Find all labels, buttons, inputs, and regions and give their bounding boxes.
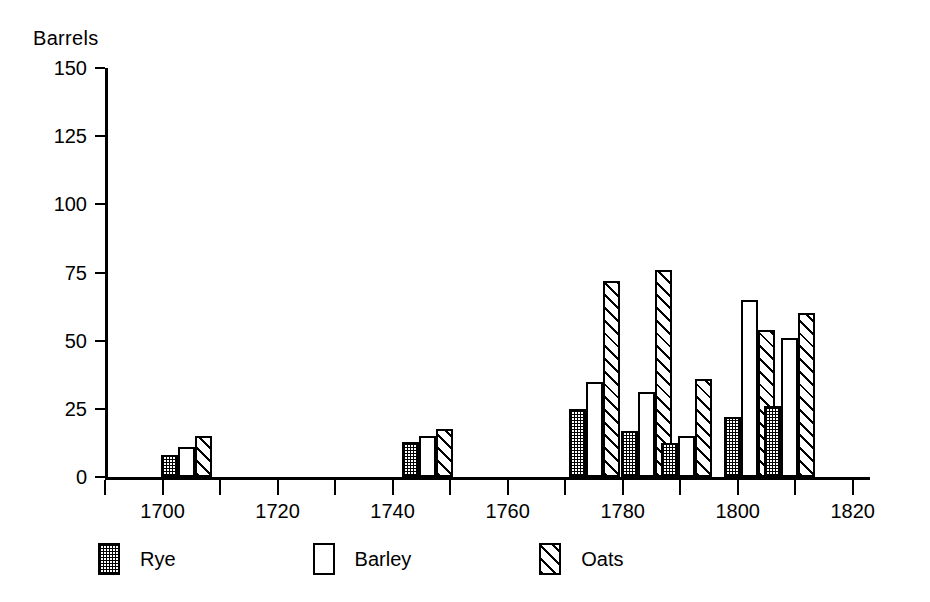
legend-item-rye: Rye bbox=[98, 543, 176, 575]
x-tick-label: 1740 bbox=[370, 500, 415, 523]
y-tick-label: 125 bbox=[54, 125, 87, 148]
x-tick-mark bbox=[737, 480, 739, 495]
legend-swatch-rye-icon bbox=[98, 543, 120, 575]
x-tick-mark-minor bbox=[219, 480, 221, 495]
bar-barley-1780 bbox=[638, 392, 655, 477]
x-tick-mark bbox=[277, 480, 279, 495]
bar-barley-1771 bbox=[586, 382, 603, 477]
x-tick-mark-minor bbox=[564, 480, 566, 495]
y-tick-mark: 100 bbox=[95, 203, 105, 205]
bar-barley-1805 bbox=[781, 338, 798, 477]
x-tick-label: 1800 bbox=[715, 500, 760, 523]
y-axis-title: Barrels bbox=[33, 27, 98, 50]
y-tick-label: 50 bbox=[65, 329, 87, 352]
y-tick-mark: 50 bbox=[95, 340, 105, 342]
x-tick-label: 1760 bbox=[485, 500, 530, 523]
x-tick-mark-minor bbox=[334, 480, 336, 495]
y-tick-label: 75 bbox=[65, 261, 87, 284]
bar-rye-1787 bbox=[661, 443, 678, 477]
y-tick-label: 100 bbox=[54, 193, 87, 216]
x-tick-label: 1700 bbox=[140, 500, 185, 523]
y-tick-label: 25 bbox=[65, 397, 87, 420]
x-tick-mark bbox=[622, 480, 624, 495]
bar-oats-1700 bbox=[195, 436, 212, 477]
bar-rye-1805 bbox=[764, 406, 781, 477]
y-tick-mark: 25 bbox=[95, 408, 105, 410]
y-tick-mark: 75 bbox=[95, 272, 105, 274]
bar-oats-1805 bbox=[798, 313, 815, 477]
y-tick-mark: 0 bbox=[95, 476, 105, 478]
chart-figure: Barrels 0255075100125150 170017201740176… bbox=[0, 0, 930, 602]
x-tick-label: 1820 bbox=[830, 500, 875, 523]
bars-layer bbox=[105, 68, 870, 477]
bar-barley-1742 bbox=[419, 436, 436, 477]
legend-label-rye: Rye bbox=[140, 548, 176, 571]
bar-rye-1700 bbox=[161, 455, 178, 477]
legend-item-barley: Barley bbox=[313, 543, 412, 575]
legend-label-oats: Oats bbox=[581, 548, 623, 571]
bar-rye-1742 bbox=[402, 442, 419, 477]
plot-area: 0255075100125150 17001720174017601780180… bbox=[105, 68, 870, 477]
x-tick-label: 1720 bbox=[255, 500, 300, 523]
x-tick-mark bbox=[507, 480, 509, 495]
bar-barley-1700 bbox=[178, 447, 195, 477]
chart-legend: Rye Barley Oats bbox=[98, 543, 624, 575]
x-tick-mark bbox=[162, 480, 164, 495]
bar-rye-1798 bbox=[724, 417, 741, 477]
legend-label-barley: Barley bbox=[355, 548, 412, 571]
x-tick-mark bbox=[852, 480, 854, 495]
bar-barley-1798 bbox=[741, 300, 758, 477]
x-tick-mark-minor bbox=[794, 480, 796, 495]
bar-rye-1771 bbox=[569, 409, 586, 477]
y-tick-label: 0 bbox=[76, 466, 87, 489]
bar-oats-1742 bbox=[436, 429, 453, 477]
x-tick-label: 1780 bbox=[600, 500, 645, 523]
y-tick-mark: 125 bbox=[95, 135, 105, 137]
y-tick-mark: 150 bbox=[95, 67, 105, 69]
x-tick-mark bbox=[392, 480, 394, 495]
x-tick-mark-minor bbox=[104, 480, 106, 495]
x-tick-mark-minor bbox=[449, 480, 451, 495]
bar-rye-1780 bbox=[621, 431, 638, 477]
y-tick-label: 150 bbox=[54, 57, 87, 80]
legend-item-oats: Oats bbox=[539, 543, 623, 575]
x-tick-mark-minor bbox=[679, 480, 681, 495]
bar-oats-1787 bbox=[695, 379, 712, 477]
bar-oats-1771 bbox=[603, 281, 620, 477]
bar-barley-1787 bbox=[678, 436, 695, 477]
legend-swatch-barley-icon bbox=[313, 543, 335, 575]
legend-swatch-oats-icon bbox=[539, 543, 561, 575]
